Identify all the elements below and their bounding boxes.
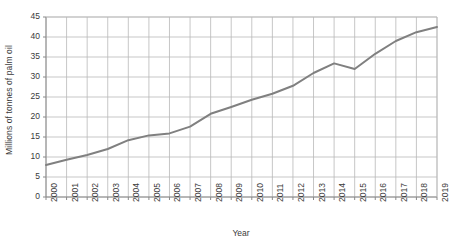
x-tick-label: 2016	[379, 183, 388, 202]
x-tick-label: 2008	[215, 183, 224, 202]
axis-lines	[46, 17, 437, 197]
x-tick-label: 2002	[91, 183, 100, 202]
y-tick-label: 5	[18, 172, 40, 181]
x-tick-label: 2018	[420, 183, 429, 202]
x-tick-label: 2003	[112, 183, 121, 202]
x-tick-label: 2010	[256, 183, 265, 202]
x-tick-label: 2017	[400, 183, 409, 202]
x-tick-label: 2019	[441, 183, 450, 202]
y-tick-label: 15	[18, 132, 40, 141]
data-series-line	[46, 27, 437, 165]
x-tick-label: 2012	[297, 183, 306, 202]
x-tick-label: 2015	[359, 183, 368, 202]
y-tick-label: 40	[18, 32, 40, 41]
x-tick-label: 2005	[153, 183, 162, 202]
y-tick-label: 25	[18, 92, 40, 101]
y-tick-label: 10	[18, 152, 40, 161]
horizontal-gridlines	[46, 17, 437, 197]
x-tick-label: 2009	[235, 183, 244, 202]
y-tick-label: 0	[18, 192, 40, 201]
y-tick-label: 45	[18, 12, 40, 21]
x-tick-label: 2014	[338, 183, 347, 202]
x-tick-label: 2011	[276, 184, 285, 202]
axis-tick-marks	[43, 17, 437, 200]
x-tick-label: 2004	[132, 183, 141, 202]
y-tick-label: 30	[18, 72, 40, 81]
x-axis-title: Year	[45, 228, 437, 238]
vertical-gridlines	[46, 17, 437, 197]
x-tick-label: 2001	[71, 183, 80, 202]
x-tick-label: 2000	[50, 183, 59, 202]
y-tick-label: 20	[18, 112, 40, 121]
x-tick-label: 2013	[318, 183, 327, 202]
x-tick-label: 2006	[173, 183, 182, 202]
x-tick-label: 2007	[194, 183, 203, 202]
y-tick-label: 35	[18, 52, 40, 61]
